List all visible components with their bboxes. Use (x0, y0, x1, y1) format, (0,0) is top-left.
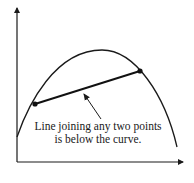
annotation-arrow (84, 94, 101, 119)
concave-function-diagram: Line joining any two points is below the… (0, 0, 194, 183)
annotation-line-2: is below the curve. (55, 133, 142, 145)
right-point-marker (137, 68, 142, 73)
annotation-line-1: Line joining any two points (34, 120, 162, 133)
left-point-marker (32, 101, 37, 106)
